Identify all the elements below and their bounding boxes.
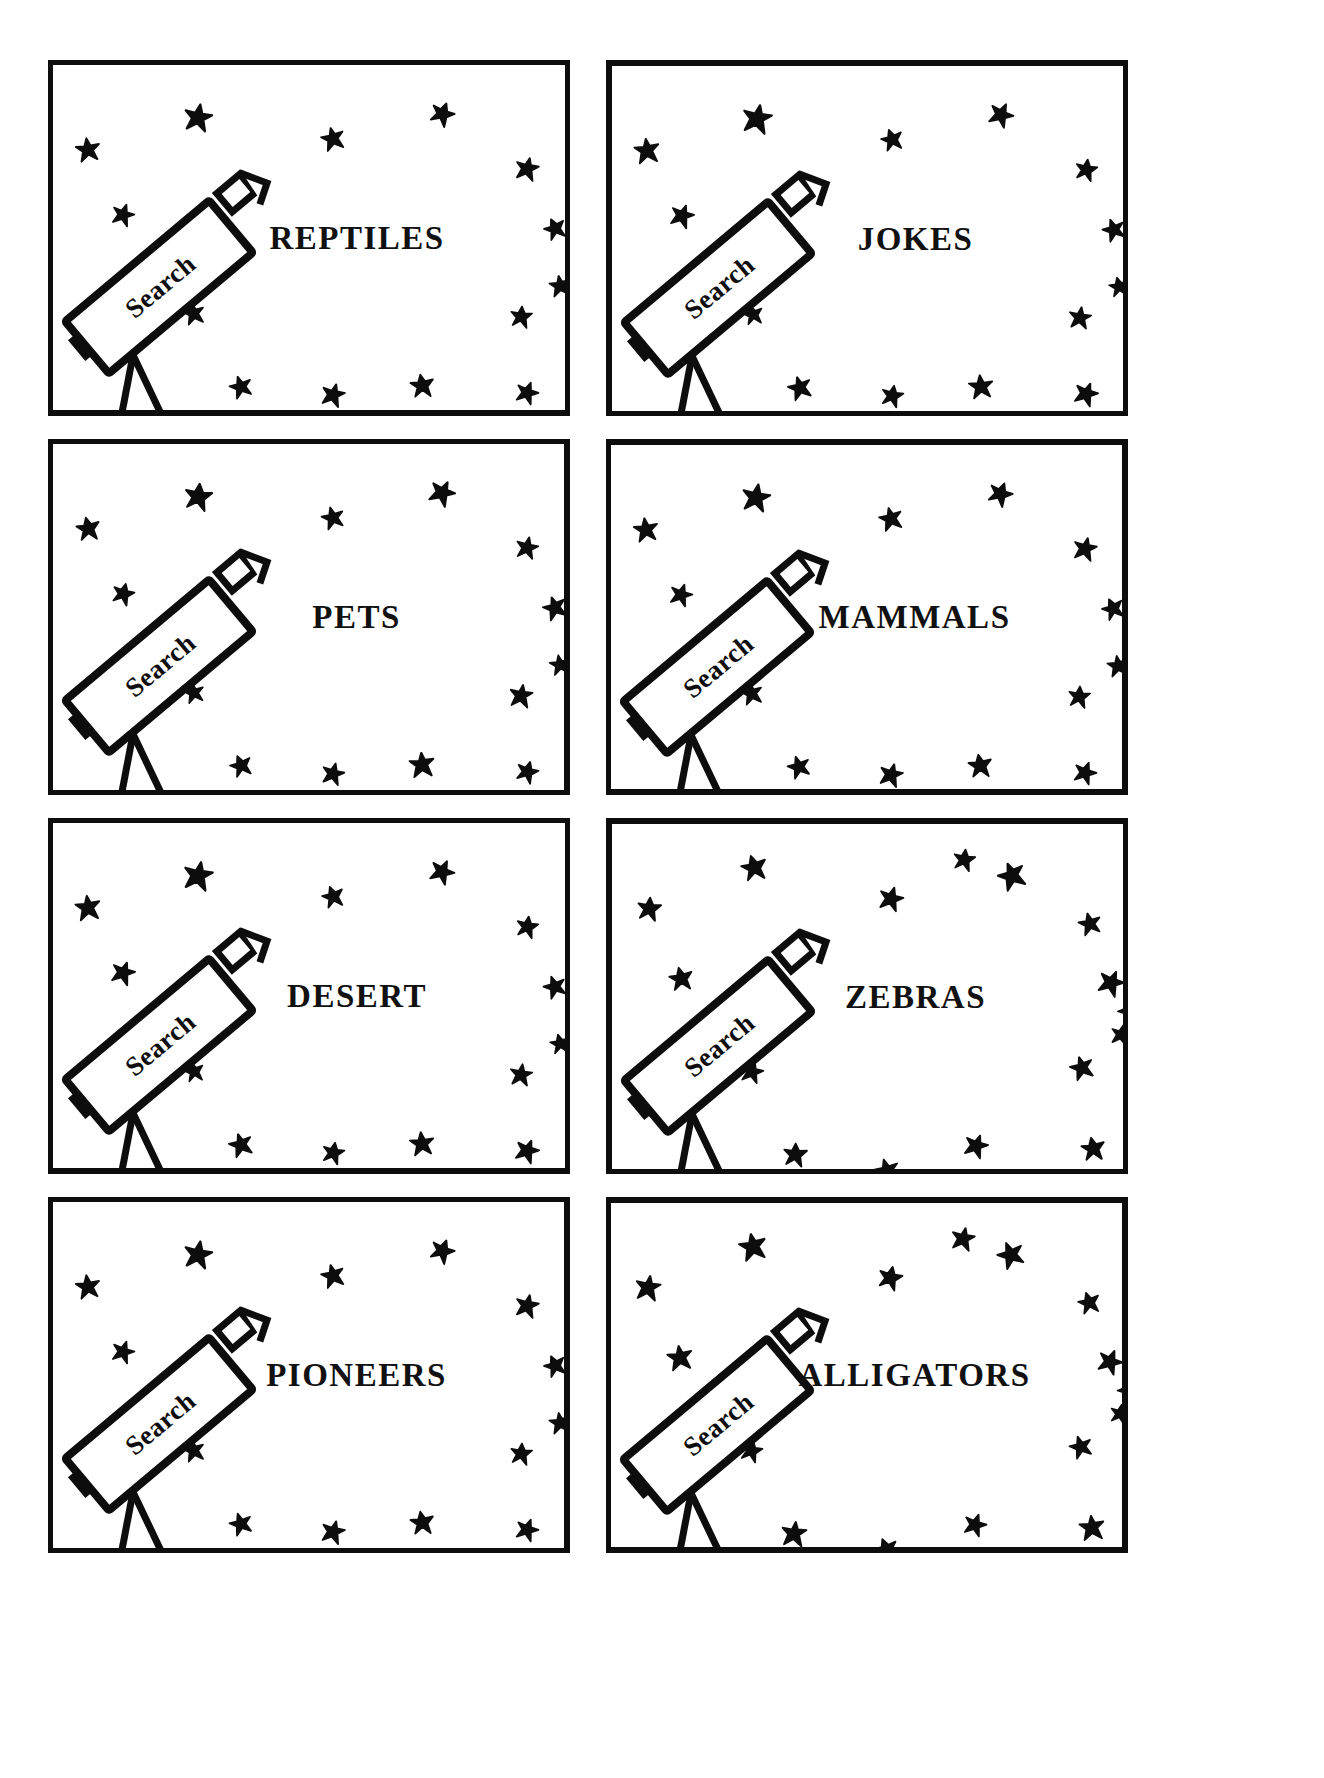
- telescope-graphic: Search: [71, 927, 271, 1174]
- card-reptiles[interactable]: Search REPTILES: [48, 60, 570, 416]
- star-icon: [880, 384, 904, 408]
- telescope-icon[interactable]: Search: [630, 170, 830, 416]
- star-icon: [515, 760, 539, 784]
- star-icon: [321, 1520, 345, 1544]
- star-icon: [183, 1240, 213, 1270]
- star-icon: [633, 517, 659, 543]
- telescope-graphic: Search: [629, 1307, 829, 1553]
- telescope-icon[interactable]: Search: [71, 1306, 271, 1553]
- card-title: PETS: [312, 599, 401, 636]
- telescope-icon[interactable]: Search: [630, 928, 830, 1174]
- star-icon: [515, 1518, 539, 1542]
- star-icon: [183, 103, 213, 133]
- star-icon: [409, 1131, 435, 1157]
- telescope-graphic: Search: [629, 549, 829, 795]
- card-grid: Search REPTILES Search JOKES: [48, 60, 1263, 1722]
- star-icon: [429, 101, 455, 127]
- star-icon: [1070, 1056, 1094, 1080]
- star-icon: [509, 684, 533, 708]
- star-icon: [543, 217, 567, 241]
- card-mammals[interactable]: Search MAMMALS: [606, 439, 1128, 795]
- star-icon: [742, 104, 772, 134]
- star-icon: [1077, 1291, 1101, 1315]
- star-icon: [321, 885, 345, 909]
- star-icon: [321, 506, 345, 530]
- star-icon: [1074, 382, 1098, 406]
- star-icon: [183, 861, 213, 891]
- star-icon: [183, 482, 213, 512]
- card-title: MAMMALS: [819, 599, 1011, 636]
- star-icon: [515, 157, 539, 181]
- star-icon: [1108, 276, 1128, 298]
- star-icon: [543, 975, 567, 999]
- star-icon: [509, 305, 533, 329]
- star-icon: [549, 275, 570, 297]
- star-icon: [429, 859, 455, 885]
- star-icon: [549, 654, 570, 676]
- star-icon: [515, 1294, 539, 1318]
- telescope-icon[interactable]: Search: [629, 549, 829, 795]
- star-icon: [1069, 1435, 1093, 1459]
- star-icon: [75, 516, 101, 542]
- star-icon: [515, 536, 539, 560]
- star-icon: [987, 481, 1013, 507]
- star-icon: [998, 862, 1026, 890]
- star-icon: [967, 753, 993, 779]
- star-icon: [429, 480, 455, 506]
- star-icon: [635, 1275, 661, 1301]
- star-icon: [634, 138, 660, 164]
- star-icon: [515, 1139, 539, 1163]
- telescope-icon[interactable]: Search: [71, 927, 271, 1174]
- star-icon: [952, 848, 976, 872]
- telescope-icon[interactable]: Search: [629, 1307, 829, 1553]
- star-icon: [1073, 537, 1097, 561]
- card-alligators[interactable]: Search ALLIGATORS: [606, 1197, 1128, 1553]
- star-icon: [880, 128, 904, 152]
- card-pioneers[interactable]: Search PIONEERS: [48, 1197, 570, 1553]
- card-pets[interactable]: Search PETS: [48, 439, 570, 795]
- star-icon: [873, 1537, 899, 1553]
- star-icon: [741, 483, 771, 513]
- star-icon: [75, 137, 101, 163]
- star-icon: [409, 752, 435, 778]
- card-zebras[interactable]: Search ZEBRAS: [606, 818, 1128, 1174]
- star-icon: [874, 1158, 900, 1174]
- star-icon: [879, 507, 903, 531]
- star-icon: [515, 915, 539, 939]
- star-icon: [515, 381, 539, 405]
- star-icon: [75, 1274, 101, 1300]
- star-icon: [636, 896, 662, 922]
- telescope-icon[interactable]: Search: [71, 548, 271, 795]
- star-icon: [543, 1354, 567, 1378]
- star-icon: [509, 1063, 533, 1087]
- star-icon: [1080, 1136, 1106, 1162]
- star-icon: [543, 596, 567, 620]
- star-icon: [409, 1510, 435, 1536]
- card-title: DESERT: [287, 977, 427, 1014]
- telescope-icon[interactable]: Search: [71, 169, 271, 416]
- card-title: REPTILES: [269, 219, 444, 256]
- star-icon: [963, 1513, 987, 1537]
- star-icon: [879, 763, 903, 787]
- star-icon: [549, 1033, 570, 1055]
- worksheet-sheet: Search REPTILES Search JOKES: [0, 0, 1324, 1778]
- card-desert[interactable]: Search DESERT: [48, 818, 570, 1174]
- star-icon: [321, 762, 345, 786]
- telescope-graphic: Search: [71, 169, 271, 416]
- star-icon: [1101, 597, 1125, 621]
- telescope-graphic: Search: [630, 928, 830, 1174]
- star-icon: [549, 1412, 570, 1434]
- card-jokes[interactable]: Search JOKES: [606, 60, 1128, 416]
- star-icon: [740, 854, 768, 882]
- telescope-graphic: Search: [71, 548, 271, 795]
- star-icon: [739, 1233, 767, 1261]
- star-icon: [1102, 218, 1126, 242]
- star-icon: [1110, 1024, 1128, 1046]
- star-icon: [1118, 1000, 1128, 1022]
- star-icon: [75, 895, 101, 921]
- star-icon: [1107, 655, 1128, 677]
- star-icon: [321, 127, 345, 151]
- star-icon: [429, 1238, 455, 1264]
- star-icon: [409, 373, 435, 399]
- star-icon: [988, 102, 1014, 128]
